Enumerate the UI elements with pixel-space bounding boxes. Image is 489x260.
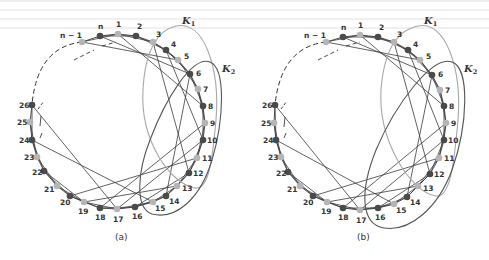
chord-edge (70, 158, 197, 196)
dashed-stub (74, 50, 94, 60)
node-9 (202, 120, 209, 127)
node-label: 11 (202, 154, 212, 163)
node-25 (271, 120, 278, 127)
node-label: 12 (434, 170, 444, 179)
edge-stub (284, 133, 286, 138)
node-5 (175, 57, 182, 64)
node-label: 22 (276, 169, 286, 178)
node-19 (81, 199, 88, 206)
node-label: 3 (156, 30, 161, 39)
dashed-stub (318, 50, 338, 60)
chord-edge (166, 74, 190, 196)
node-5 (417, 57, 424, 64)
node-label: 5 (184, 52, 189, 61)
node-label: 14 (410, 198, 420, 207)
node-10 (200, 137, 207, 144)
node-11 (436, 155, 443, 162)
node-label: 14 (169, 197, 179, 206)
node-8 (441, 103, 448, 110)
panel-caption: (b) (357, 232, 370, 242)
node-label: 18 (338, 213, 348, 222)
node-label: 25 (17, 118, 27, 127)
node-label: 20 (303, 198, 313, 207)
node-8 (200, 103, 207, 110)
dashed-arc (32, 42, 82, 105)
node-label: 12 (193, 169, 203, 178)
node-label: 20 (60, 198, 70, 207)
node-label: 10 (207, 136, 217, 145)
node-n (97, 33, 104, 40)
node-label: 3 (397, 30, 402, 39)
node-12 (427, 171, 434, 178)
panel-a: K1K2n − 1n123456789101112131415161718192… (17, 15, 235, 242)
node-label: 13 (423, 184, 433, 193)
node-label: 21 (44, 185, 54, 194)
node-9 (443, 120, 450, 127)
node-21 (54, 183, 61, 190)
node-label: 23 (24, 153, 34, 162)
node-label: n (98, 22, 103, 31)
node-7 (195, 86, 202, 93)
node-label: 11 (444, 154, 454, 163)
node-13 (174, 183, 181, 190)
chord-edge (394, 42, 430, 174)
node-2 (375, 34, 382, 41)
node-26 (29, 102, 36, 109)
node-7 (437, 87, 444, 94)
panel-b: K1K2n − 1n123456789101112131415161718192… (261, 15, 477, 242)
node-6 (187, 71, 194, 78)
dashed-stub (102, 42, 116, 46)
node-label: 25 (261, 119, 271, 128)
chord-edge (135, 173, 189, 207)
node-19 (324, 199, 331, 206)
node-label: 6 (438, 70, 443, 79)
node-13 (415, 183, 422, 190)
node-3 (150, 39, 157, 46)
node-17 (114, 206, 121, 213)
node-label: 23 (268, 153, 278, 162)
node-17 (357, 207, 364, 214)
node-n (340, 34, 347, 41)
node-4 (405, 47, 412, 54)
node-23 (34, 154, 41, 161)
node-4 (163, 47, 170, 54)
node-label: 21 (287, 185, 297, 194)
node-label: n (341, 23, 346, 32)
node-label: 4 (413, 40, 418, 49)
k2-label: K2 (463, 63, 477, 76)
node-label: 6 (196, 69, 201, 78)
chord-edge (100, 123, 205, 208)
edge-stub (40, 133, 42, 138)
node-label: 13 (182, 184, 192, 193)
node-label: n − 1 (60, 31, 82, 40)
chord-edge (84, 186, 177, 202)
k1-loop (381, 26, 459, 197)
node-label: 24 (19, 136, 29, 145)
node-label: 9 (451, 119, 456, 128)
node-label: 26 (19, 101, 29, 110)
node-label: 1 (358, 21, 363, 30)
node-label: 15 (396, 206, 406, 215)
node-1 (357, 32, 364, 39)
node-label: 24 (263, 136, 273, 145)
dashed-stub (346, 42, 360, 46)
node-label: 5 (426, 52, 431, 61)
node-23 (278, 154, 285, 161)
node-label: 22 (32, 168, 42, 177)
node-24 (273, 137, 280, 144)
node-label: 16 (375, 213, 385, 222)
node-12 (186, 170, 193, 177)
node-18 (340, 205, 347, 212)
graph-figure: K1K2n − 1n123456789101112131415161718192… (0, 0, 489, 260)
node-11 (194, 155, 201, 162)
node-label: 2 (379, 23, 384, 32)
node-label: 8 (208, 102, 213, 111)
node-3 (391, 39, 398, 46)
node-16 (375, 205, 382, 212)
node-16 (132, 204, 139, 211)
node-label: 19 (78, 207, 88, 216)
chord-edge (343, 123, 446, 208)
node-label: 26 (262, 101, 272, 110)
node-label: 2 (137, 22, 142, 31)
node-label: 7 (445, 86, 450, 95)
